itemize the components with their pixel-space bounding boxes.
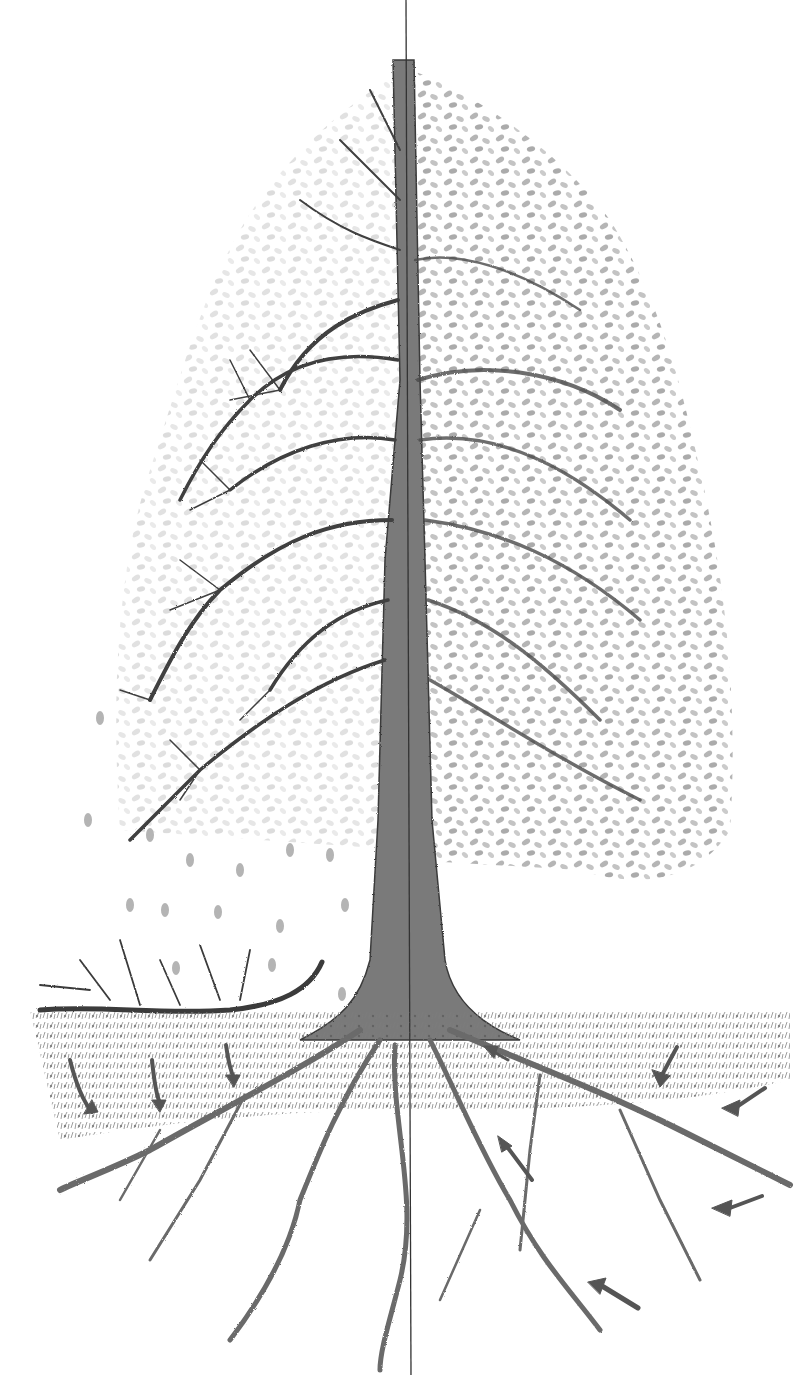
leafy-crown-right	[410, 70, 733, 880]
faint-crown-left	[116, 70, 405, 850]
arrow-up-left-icon	[588, 1278, 638, 1308]
arrow-up-left-icon	[498, 1136, 532, 1180]
arrow-left-icon	[712, 1196, 762, 1216]
arrow-left-icon	[722, 1088, 765, 1116]
tree-illustration	[0, 0, 812, 1390]
fallen-branch	[40, 940, 322, 1011]
